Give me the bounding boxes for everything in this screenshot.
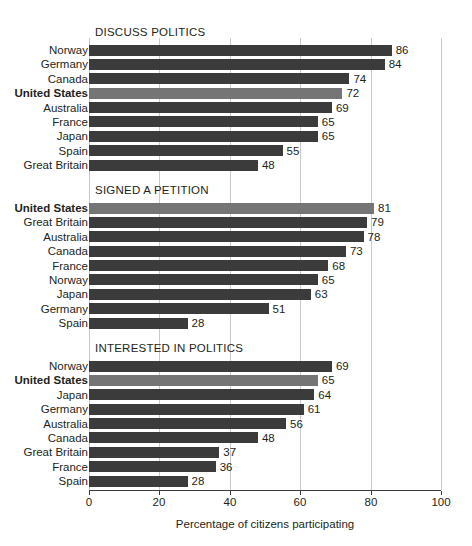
bar [89,45,392,56]
category-label: Germany [41,303,88,315]
bar-row: United States72 [0,87,472,101]
bar [89,131,318,142]
x-axis-tick [89,491,90,495]
category-label: Japan [57,130,88,142]
bar [89,260,328,271]
bar-row: France68 [0,260,472,274]
category-label: Germany [41,58,88,70]
bar-row: Australia69 [0,102,472,116]
x-axis-tick [371,491,372,495]
bar-row: Germany61 [0,403,472,417]
x-axis-tick-label: 100 [431,496,450,508]
bar-value-label: 86 [396,44,409,56]
bar-row: United States81 [0,202,472,216]
bar-value-label: 79 [371,216,384,228]
bar-row: Australia78 [0,231,472,245]
x-axis-tick-label: 60 [294,496,307,508]
x-axis-tick [300,491,301,495]
bar-value-label: 48 [262,432,275,444]
bar [89,116,318,127]
category-label: Germany [41,403,88,415]
panel-rows-1: United States81Great Britain79Australia7… [0,202,472,332]
bar-value-label: 65 [322,116,335,128]
bar [89,318,188,329]
category-label: United States [15,202,89,214]
bar-value-label: 65 [322,374,335,386]
bar [89,418,286,429]
bar-row: France65 [0,116,472,130]
bar-row: Canada73 [0,245,472,259]
bar [89,231,364,242]
bar [89,461,216,472]
bar-value-label: 55 [287,145,300,157]
bar-row: Great Britain79 [0,216,472,230]
bar-value-label: 28 [192,475,205,487]
panel-title-0: DISCUSS POLITICS [95,26,205,38]
category-label: United States [15,87,89,99]
bar-value-label: 74 [353,73,366,85]
bar-row: Norway65 [0,274,472,288]
bar [89,404,304,415]
category-label: Canada [48,245,88,257]
x-axis-caption: Percentage of citizens participating [176,518,354,530]
panel-rows-2: Norway69United States65Japan64Germany61A… [0,360,472,490]
x-axis-tick-label: 80 [365,496,378,508]
x-axis-tick-label: 20 [153,496,166,508]
bar-row: Great Britain37 [0,446,472,460]
bar [89,361,332,372]
bar-row: Germany51 [0,303,472,317]
category-label: Japan [57,389,88,401]
bar [89,246,346,257]
category-label: Spain [59,475,88,487]
bar-value-label: 51 [273,303,286,315]
bar-chart-figure: DISCUSS POLITICS Norway86Germany84Canada… [0,0,472,546]
bar-value-label: 37 [223,446,236,458]
category-label: Great Britain [23,159,88,171]
bar [89,476,188,487]
bar-row: France36 [0,461,472,475]
bar-value-label: 36 [220,461,233,473]
x-axis-line [89,490,441,491]
x-axis-tick [441,491,442,495]
category-label: Great Britain [23,446,88,458]
bar-row: Japan63 [0,288,472,302]
category-label: Australia [43,102,88,114]
category-label: Great Britain [23,216,88,228]
bar-value-label: 72 [346,87,359,99]
bar-row: Canada48 [0,432,472,446]
bar-value-label: 63 [315,288,328,300]
bar-row: Spain28 [0,317,472,331]
category-label: Spain [59,317,88,329]
bar [89,274,318,285]
bar-row: Canada74 [0,73,472,87]
category-label: Norway [49,274,88,286]
bar-value-label: 73 [350,245,363,257]
bar-row: Japan65 [0,130,472,144]
x-axis-tick-label: 0 [86,496,92,508]
bar-value-label: 65 [322,130,335,142]
bar-value-label: 48 [262,159,275,171]
bar [89,145,283,156]
bar-value-label: 81 [378,202,391,214]
category-label: United States [15,374,89,386]
bar [89,217,367,228]
category-label: Canada [48,73,88,85]
bar-row: Norway69 [0,360,472,374]
bar-value-label: 84 [389,58,402,70]
panel-title-1: SIGNED A PETITION [95,184,209,196]
x-axis-tick [230,491,231,495]
bar-value-label: 69 [336,360,349,372]
category-label: France [52,116,88,128]
category-label: Canada [48,432,88,444]
bar-row: Norway86 [0,44,472,58]
panel-rows-0: Norway86Germany84Canada74United States72… [0,44,472,174]
category-label: Spain [59,145,88,157]
bar-row: Germany84 [0,58,472,72]
bar-row: United States65 [0,374,472,388]
category-label: Australia [43,231,88,243]
bar [89,447,219,458]
bar [89,160,258,171]
bar-value-label: 65 [322,274,335,286]
bar-row: Spain28 [0,475,472,489]
bar [89,303,269,314]
